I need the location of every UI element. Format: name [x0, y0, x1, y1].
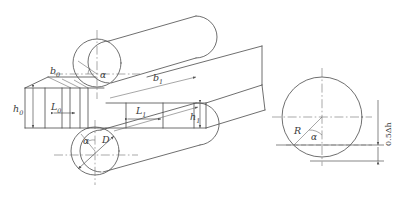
label-L1: L1: [135, 105, 146, 119]
roll-circle-detail-view: R α 0.5Δh: [272, 68, 393, 166]
label-alpha-top: α: [100, 70, 106, 80]
label-b0: b0: [50, 65, 60, 79]
label-half-delta-h: 0.5Δh: [384, 122, 393, 146]
slab-entry-back-top-left: [25, 77, 48, 88]
top-roll-top-edge: [109, 16, 196, 41]
label-h1: h1: [190, 111, 200, 125]
slab-exit-back-top-edge: [147, 46, 262, 77]
bottom-roll-top-edge: [101, 103, 196, 130]
slab-entry-oblique-a: [48, 77, 71, 88]
dimensions-main-view: h0 L0 L1 h1 b0 b1: [13, 65, 200, 128]
label-L0: L0: [50, 101, 61, 115]
engineering-drawing-canvas: α α D: [0, 0, 414, 204]
label-alpha-detail: α: [311, 132, 317, 142]
figure-root: α α D: [0, 0, 414, 204]
top-roll-bite-arm: [78, 61, 97, 74]
slab-exit-bottom-right-edge: [206, 110, 265, 128]
label-h0: h0: [13, 103, 23, 117]
slab-entry-oblique-b: [62, 79, 80, 88]
label-alpha-bottom: α: [83, 136, 89, 146]
bottom-roll-section-circle: α D: [54, 120, 138, 185]
slab-exit-far-right-face: [262, 85, 265, 110]
slab-exit-top-right-edge: [206, 85, 262, 103]
bottom-roll-cylinder: [80, 103, 219, 172]
top-roll-section-circle: α: [54, 30, 140, 99]
label-b1: b1: [153, 72, 163, 86]
label-D: D: [101, 134, 110, 145]
label-R: R: [293, 125, 301, 136]
top-roll-right-end-arc: [196, 16, 217, 58]
